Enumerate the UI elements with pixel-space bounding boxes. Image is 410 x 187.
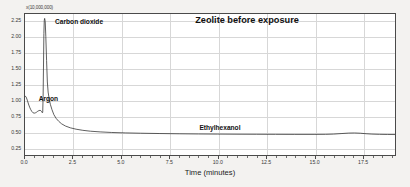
x-axis-minor-tick-mark <box>344 156 345 158</box>
x-axis-minor-tick-mark <box>324 156 325 158</box>
x-axis-tick-labels: 0.02.55.07.510.012.515.017.5 <box>24 156 396 168</box>
x-axis-minor-tick-mark <box>334 156 335 158</box>
x-axis-minor-tick-mark <box>150 156 151 158</box>
x-axis-minor-tick-mark <box>276 156 277 158</box>
x-axis-minor-tick-mark <box>189 156 190 158</box>
chromatogram-figure: x(10,000,000) 0.250.500.751.001.251.501.… <box>0 0 410 187</box>
x-axis-minor-tick-mark <box>382 156 383 158</box>
x-axis-minor-tick-mark <box>82 156 83 158</box>
x-axis-minor-tick-mark <box>208 156 209 158</box>
x-axis-minor-tick-mark <box>102 156 103 158</box>
x-axis-tick-mark <box>266 156 267 159</box>
x-axis-minor-tick-mark <box>286 156 287 158</box>
x-axis-minor-tick-mark <box>227 156 228 158</box>
x-axis-tick-mark <box>363 156 364 159</box>
y-axis-tick-label: 0.50 <box>11 129 21 135</box>
x-axis-minor-tick-mark <box>392 156 393 158</box>
x-axis-minor-tick-mark <box>179 156 180 158</box>
x-axis-minor-tick-mark <box>295 156 296 158</box>
x-axis-minor-tick-mark <box>373 156 374 158</box>
x-axis-minor-tick-mark <box>63 156 64 158</box>
x-axis-tick-mark <box>169 156 170 159</box>
x-axis-tick-label: 0.0 <box>20 159 27 165</box>
y-axis-multiplier-label: x(10,000,000) <box>26 5 53 10</box>
x-axis-title: Time (minutes) <box>24 168 396 177</box>
x-axis-tick-mark <box>72 156 73 159</box>
y-axis-tick-label: 1.00 <box>11 97 21 103</box>
x-axis-minor-tick-mark <box>237 156 238 158</box>
peak-label-carbon-dioxide: Carbon dioxide <box>55 18 103 25</box>
y-axis-tick-label: 1.50 <box>11 65 21 71</box>
x-axis-minor-tick-mark <box>160 156 161 158</box>
y-axis-tick-label: 1.75 <box>11 49 21 55</box>
x-axis-tick-mark <box>24 156 25 159</box>
y-axis-tick-label: 1.25 <box>11 81 21 87</box>
y-axis-tick-labels: 0.250.500.751.001.251.501.752.002.25 <box>0 13 21 156</box>
y-axis-tick-label: 2.25 <box>11 17 21 23</box>
x-axis-tick-mark <box>315 156 316 159</box>
y-axis-tick-label: 0.75 <box>11 113 21 119</box>
x-axis-minor-tick-mark <box>131 156 132 158</box>
x-axis-tick-label: 5.0 <box>117 159 124 165</box>
x-axis-minor-tick-mark <box>257 156 258 158</box>
x-axis-tick-mark <box>218 156 219 159</box>
x-axis-tick-label: 10.0 <box>213 159 223 165</box>
x-axis-minor-tick-mark <box>34 156 35 158</box>
x-axis-tick-label: 7.5 <box>166 159 173 165</box>
x-axis-minor-tick-mark <box>247 156 248 158</box>
x-axis-minor-tick-mark <box>43 156 44 158</box>
x-axis-minor-tick-mark <box>305 156 306 158</box>
plot-area: Zeolite before exposure ArgonCarbon diox… <box>24 13 396 156</box>
x-axis-tick-label: 2.5 <box>69 159 76 165</box>
x-axis-tick-label: 12.5 <box>261 159 271 165</box>
x-axis-tick-label: 17.5 <box>358 159 368 165</box>
x-axis-minor-tick-mark <box>353 156 354 158</box>
x-axis-minor-tick-mark <box>111 156 112 158</box>
x-axis-tick-mark <box>121 156 122 159</box>
x-axis-minor-tick-mark <box>92 156 93 158</box>
x-axis-minor-tick-mark <box>140 156 141 158</box>
x-axis-tick-label: 15.0 <box>310 159 320 165</box>
y-axis-tick-label: 0.25 <box>11 145 21 151</box>
y-axis-tick-label: 2.00 <box>11 33 21 39</box>
annotation-layer: Zeolite before exposure ArgonCarbon diox… <box>25 14 395 155</box>
chart-title: Zeolite before exposure <box>195 15 299 25</box>
peak-label-ethylhexanol: Ethylhexanol <box>199 124 240 131</box>
x-axis-minor-tick-mark <box>53 156 54 158</box>
peak-label-argon: Argon <box>39 95 58 102</box>
x-axis-minor-tick-mark <box>198 156 199 158</box>
